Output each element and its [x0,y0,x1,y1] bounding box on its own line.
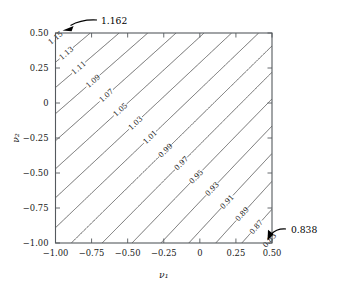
contour-plot-figure: 0.850.870.890.910.930.950.970.991.011.03… [0,0,339,296]
contour-line [262,209,272,220]
y-tick-label: −1.00 [23,238,49,248]
max-value-annotation: 1.162 [101,15,127,26]
contour-line [172,46,272,145]
y-tick-label: −0.25 [23,133,49,143]
contour-line [127,33,205,104]
y-axis-title: ν₂ [10,133,21,143]
contour-line [56,116,114,169]
x-tick-label: 0.50 [263,248,282,258]
contour-line [56,87,87,114]
contour-labels-group: 0.850.870.890.910.930.950.970.991.011.03… [46,29,278,249]
contour-line [113,33,176,90]
contour-line [202,99,272,170]
contour-line [100,33,148,75]
x-axis-title: ν₁ [159,269,168,280]
min-value-annotation: 0.838 [291,224,317,235]
contour-label: 1.13 [57,44,76,62]
contour-plot-svg: 0.850.870.890.910.930.950.970.991.011.03… [0,0,339,296]
contour-line [85,33,119,62]
x-tick-label: −1.00 [43,248,69,258]
contour-line [73,33,90,48]
contour-line [56,129,130,198]
contour-label: 1.11 [70,59,88,76]
contour-line [102,170,175,244]
axis-ticks-group: −1.00−0.75−0.50−0.2500.250.500.500.250−0… [23,28,282,258]
contour-line [233,154,272,196]
contour-line [156,33,258,131]
contour-label: 1.09 [84,72,102,90]
max-annotation-arrow-line [71,20,98,26]
y-tick-label: 0 [43,98,48,108]
contour-line [218,126,272,183]
contour-line [187,72,272,157]
contour-line [142,33,232,117]
contour-line [242,233,250,243]
y-tick-label: −0.50 [23,168,49,178]
x-tick-label: 0 [197,248,202,258]
y-tick-label: 0.25 [30,63,49,73]
x-tick-label: −0.25 [151,248,177,258]
x-tick-label: −0.50 [115,248,141,258]
contour-line [132,183,190,243]
contour-line [189,208,221,243]
y-tick-label: −0.75 [23,203,49,213]
contour-line [56,59,60,62]
max-annotation-arrowhead [63,26,74,31]
contour-line [161,195,206,243]
y-tick-label: 0.50 [30,28,49,38]
contour-line [56,73,73,87]
x-tick-label: −0.75 [79,248,105,258]
contour-line [248,181,272,207]
x-tick-label: 0.25 [227,248,246,258]
contour-line [216,221,236,243]
